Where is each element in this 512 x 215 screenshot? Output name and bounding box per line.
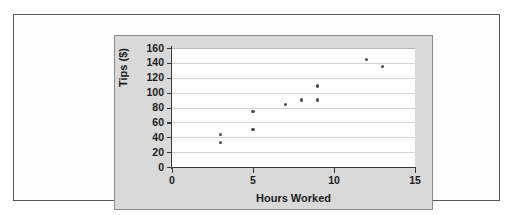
y-tick-label-wrap-120: 120 [124, 72, 164, 83]
y-tick-label-wrap-80: 80 [124, 102, 164, 113]
x-axis-line [171, 167, 416, 168]
gridline-y-40 [172, 137, 415, 138]
data-point [316, 84, 319, 87]
plot-area [172, 48, 415, 167]
gridline-y-80 [172, 108, 415, 109]
gridline-y-140 [172, 63, 415, 64]
y-tick-label-wrap-140: 140 [124, 57, 164, 68]
y-tick-label-wrap-100: 100 [124, 87, 164, 98]
gridline-y-60 [172, 122, 415, 123]
y-tick-label-80: 80 [126, 102, 164, 113]
y-tick-label-160: 160 [126, 43, 164, 54]
data-point [284, 103, 287, 106]
y-tick-label-40: 40 [126, 132, 164, 143]
x-tick-label-10: 10 [319, 174, 349, 186]
y-tick-mark-20 [167, 152, 172, 153]
y-tick-label-60: 60 [126, 117, 164, 128]
y-tick-mark-60 [167, 122, 172, 123]
gridline-y-20 [172, 152, 415, 153]
x-tick-label-15: 15 [400, 174, 430, 186]
y-tick-label-wrap-60: 60 [124, 117, 164, 128]
x-tick-mark-10 [334, 168, 335, 173]
y-tick-mark-100 [167, 93, 172, 94]
y-tick-mark-140 [167, 63, 172, 64]
y-axis-title: Tips ($) [117, 48, 129, 87]
data-point [316, 98, 319, 101]
data-point [219, 133, 222, 136]
y-tick-label-140: 140 [126, 57, 164, 68]
data-point [219, 141, 222, 144]
x-tick-label-5: 5 [238, 174, 268, 186]
gridline-y-100 [172, 93, 415, 94]
y-tick-label-100: 100 [126, 87, 164, 98]
x-tick-mark-15 [415, 168, 416, 173]
data-point [251, 128, 254, 131]
y-tick-mark-80 [167, 108, 172, 109]
x-tick-mark-5 [253, 168, 254, 173]
gridline-y-160 [172, 48, 415, 49]
y-tick-label-wrap-40: 40 [124, 132, 164, 143]
data-point [251, 110, 254, 113]
data-point [365, 58, 368, 61]
y-tick-label-wrap-0: 0 [124, 162, 164, 173]
x-tick-label-0: 0 [157, 174, 187, 186]
x-tick-mark-0 [172, 168, 173, 173]
gridline-y-120 [172, 78, 415, 79]
y-tick-mark-40 [167, 137, 172, 138]
y-tick-label-20: 20 [126, 147, 164, 158]
y-tick-label-wrap-20: 20 [124, 147, 164, 158]
y-tick-mark-120 [167, 78, 172, 79]
y-tick-label-0: 0 [126, 162, 164, 173]
y-tick-mark-160 [167, 48, 172, 49]
data-point [381, 65, 384, 68]
figure-panel: 020406080100120140160 051015 Tips ($) Ho… [13, 14, 500, 201]
x-axis-title: Hours Worked [172, 192, 415, 204]
data-point [300, 98, 303, 101]
y-tick-label-wrap-160: 160 [124, 43, 164, 54]
y-tick-label-120: 120 [126, 72, 164, 83]
